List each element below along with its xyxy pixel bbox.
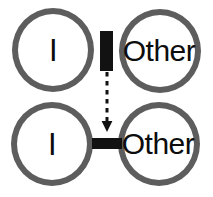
node-circle-top-left: I [12, 8, 94, 92]
node-label-top-left: I [49, 35, 57, 66]
arrow-head [102, 121, 113, 132]
dashed-down-arrow-icon [98, 72, 116, 132]
node-circle-bottom-right: Other [118, 102, 200, 186]
node-label-bottom-right: Other [122, 129, 195, 159]
node-circle-bottom-left: I [11, 102, 93, 186]
diagram-canvas: I Other I Other [0, 0, 213, 197]
node-label-bottom-left: I [48, 129, 56, 160]
node-circle-top-right: Other [119, 9, 201, 93]
vertical-bar-icon [100, 31, 113, 71]
horizontal-bar-icon [92, 138, 122, 149]
node-label-top-right: Other [123, 36, 196, 66]
